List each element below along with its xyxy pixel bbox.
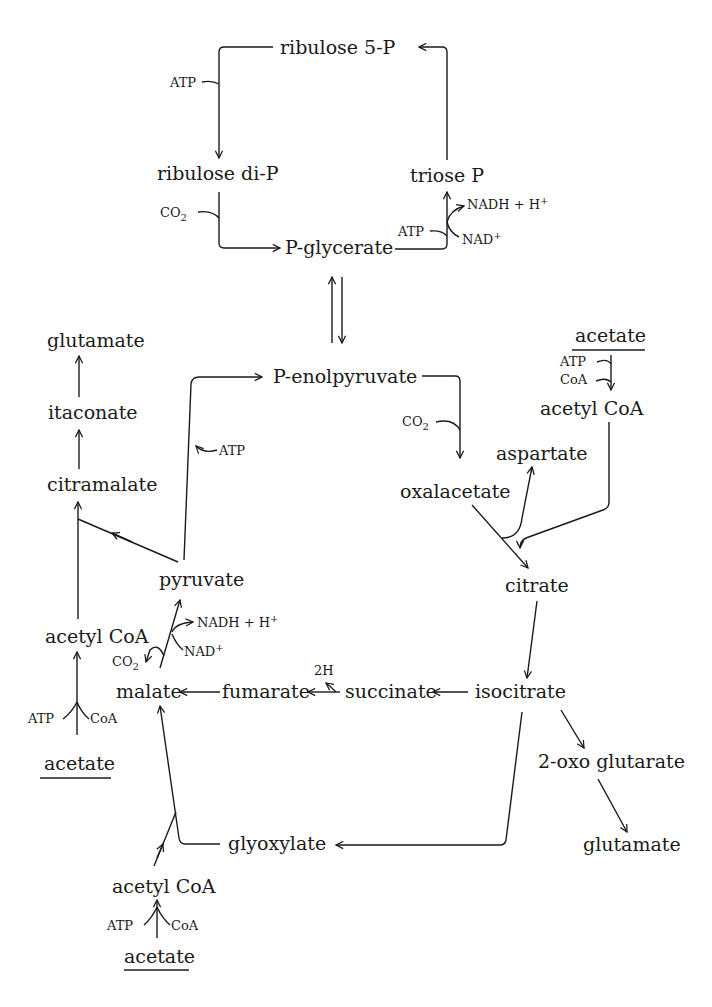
node-p-enolpyruvate: P-enolpyruvate	[273, 365, 417, 387]
cofactor-co2-ribulosedip: CO2	[160, 205, 187, 223]
node-acetyl-coa-bottom: acetyl CoA	[112, 875, 216, 897]
node-aspartate: aspartate	[496, 442, 588, 464]
arrow-2h-out-succinate	[326, 683, 336, 692]
arrow-isocitrate-to-glyoxylate	[336, 712, 522, 845]
arrow-triose-to-ribulose5p	[419, 47, 447, 160]
arrow-atp-into-acetate-left	[63, 702, 77, 719]
node-acetate-right: acetate	[575, 324, 646, 346]
node-fumarate: fumarate	[222, 680, 310, 702]
node-acetyl-coa-left: acetyl CoA	[45, 625, 149, 647]
cofactor-co2-malate: CO2	[112, 654, 139, 672]
arrow-atp-into-pep	[196, 446, 217, 451]
arrow-pglycerate-to-triosep	[395, 192, 447, 249]
node-pyruvate: pyruvate	[159, 568, 244, 590]
arrow-nad-into-pyruvate	[172, 634, 183, 650]
arrow-head-pyruvate-citramalate	[112, 533, 132, 542]
cofactor-atp-acetate-right: ATP	[559, 354, 586, 369]
node-ribulose-di-p: ribulose di-P	[157, 162, 279, 184]
arrow-ribulosedip-to-pglycerate	[219, 192, 280, 248]
arrow-coa-into-acetate-left	[77, 702, 89, 719]
arrow-coa-into-acetate-bottom	[157, 907, 170, 925]
arrow-nadh-out-pyruvate	[172, 622, 193, 632]
arrow-coa-into-acetate-right	[596, 379, 611, 382]
node-2-oxo-glutarate: 2-oxo glutarate	[538, 750, 685, 772]
arrow-nad-into-triose	[447, 222, 459, 237]
arrow-atp-into-acetate-bottom	[144, 907, 157, 925]
arrow-atp-into-ribulose	[202, 81, 219, 84]
arrow-ribulose5p-to-ribulosedip	[219, 47, 273, 158]
cofactor-nadh-pyruvate: NADH + H+	[197, 613, 278, 630]
arrow-atp-into-triose	[430, 231, 447, 236]
arrow-oxoglutarate-to-glutamate	[598, 779, 627, 832]
node-citramalate: citramalate	[47, 473, 157, 495]
arrow-malate-to-pyruvate	[160, 600, 180, 668]
arrow-co2-into-oxalacetate	[436, 421, 460, 430]
node-acetyl-coa-right: acetyl CoA	[540, 397, 644, 419]
node-oxalacetate: oxalacetate	[400, 480, 511, 502]
cofactor-2h-succinate: 2H	[314, 663, 334, 678]
cofactor-atp-acetate-bottom: ATP	[106, 918, 133, 933]
node-ribulose-5p: ribulose 5-P	[280, 36, 396, 58]
cofactor-co2-oxalacetate: CO2	[402, 414, 429, 432]
cofactor-coa-acetate-right: CoA	[560, 372, 588, 387]
arrow-oxalacetate-to-aspartate	[502, 467, 532, 538]
arrow-acetylcoa-to-citrate	[520, 422, 609, 548]
node-citrate: citrate	[505, 574, 569, 596]
node-acetate-bottom: acetate	[124, 945, 195, 967]
node-p-glycerate: P-glycerate	[285, 236, 393, 258]
arrow-co2-into-ribulosedip	[198, 212, 219, 218]
arrow-atp-into-acetate-right	[597, 360, 611, 364]
node-glutamate-left: glutamate	[47, 329, 145, 351]
node-triose-p: triose P	[410, 164, 484, 186]
cofactor-coa-acetate-left: CoA	[90, 711, 118, 726]
arrow-pyruvate-to-pep	[184, 377, 262, 560]
node-acetate-left: acetate	[44, 752, 115, 774]
cofactor-atp-pep: ATP	[218, 443, 245, 458]
cofactor-atp-triose: ATP	[397, 224, 424, 239]
arrow-co2-out-malate	[146, 647, 164, 662]
node-glyoxylate: glyoxylate	[228, 832, 326, 854]
cofactor-nadh-triose: NADH + H+	[467, 195, 548, 212]
cofactor-nad-triose: NAD+	[462, 230, 502, 247]
node-itaconate: itaconate	[48, 401, 138, 423]
arrow-citrate-to-isocitrate	[527, 601, 537, 678]
cofactor-atp-ribulose: ATP	[169, 75, 196, 90]
cofactor-atp-acetate-left: ATP	[27, 711, 54, 726]
cofactor-coa-acetate-bottom: CoA	[171, 918, 199, 933]
cofactor-nad-pyruvate: NAD+	[184, 642, 224, 659]
arrow-oxalacetate-to-citrate	[472, 505, 528, 568]
metabolic-pathway-diagram: ribulose 5-P ribulose di-P triose P P-gl…	[0, 0, 712, 1007]
node-glutamate-right: glutamate	[583, 833, 681, 855]
node-isocitrate: isocitrate	[475, 680, 566, 702]
arrow-pep-to-oxalacetate	[422, 376, 460, 458]
arrow-head-acetylcoa-glyoxylate	[157, 844, 163, 858]
node-malate: malate	[116, 680, 182, 702]
arrow-isocitrate-to-oxoglutarate	[561, 710, 584, 748]
arrow-glyoxylate-to-malate	[160, 706, 220, 844]
node-succinate: succinate	[345, 680, 437, 702]
arrow-nadh-out-triose	[447, 206, 464, 222]
